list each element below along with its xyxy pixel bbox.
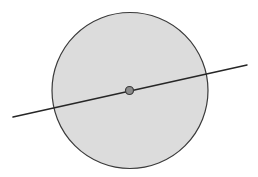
geometry-figure (0, 0, 258, 177)
figure-canvas (0, 0, 258, 177)
center-point-marker (126, 87, 134, 95)
